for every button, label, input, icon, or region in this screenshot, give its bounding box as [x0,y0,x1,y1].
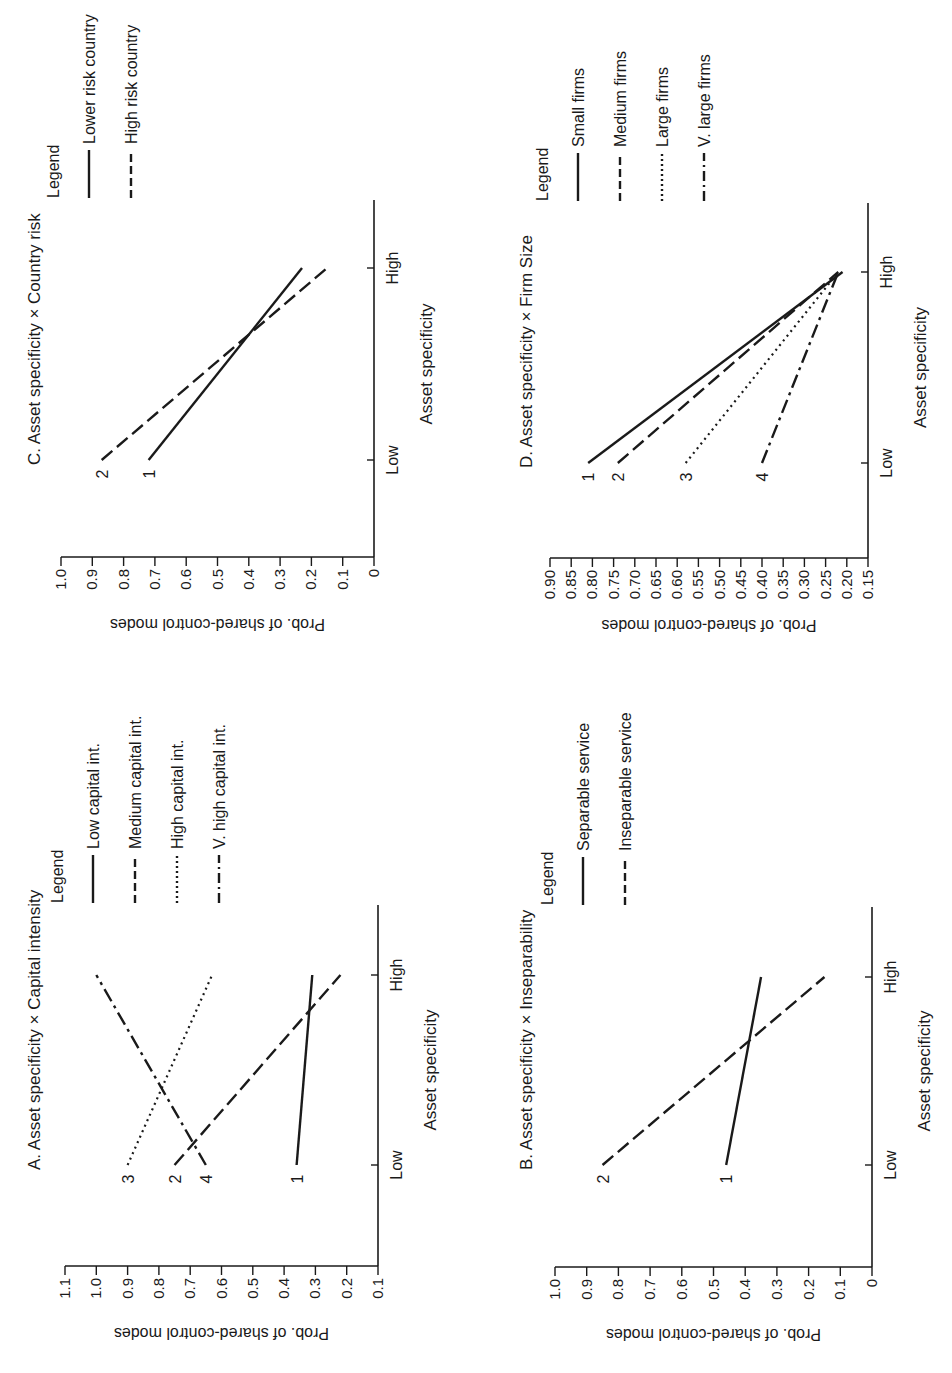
legend: LegendLower risk countryHigh risk countr… [45,14,140,198]
y-tick-label: 0.35 [774,570,791,599]
panel-a: A. Asset specificity × Capital intensity… [25,716,440,1342]
y-tick-label: 0.85 [562,570,579,599]
y-tick-label: 0.4 [240,569,257,590]
y-tick-label: 0.6 [213,1278,230,1299]
series-line-1 [726,977,761,1165]
series-line-1 [149,268,302,460]
legend-heading: Legend [49,850,66,903]
y-tick-label: 0.45 [732,570,749,599]
panel-b: B. Asset specificity × Inseparability1.0… [517,712,934,1343]
legend-label: Lower risk country [81,14,98,144]
y-tick-label: 0.75 [605,570,622,599]
x-tick-label: High [388,959,405,992]
y-tick-label: 1.0 [52,569,69,590]
legend-label: Large firms [654,67,671,147]
y-tick-label: 0.5 [209,569,226,590]
y-tick-label: 0.2 [800,1279,817,1300]
y-tick-label: 0.4 [275,1278,292,1299]
series-end-label: 2 [610,472,627,481]
legend-label: V. large firms [696,54,713,147]
series-line-1 [297,975,313,1165]
y-tick-label: 0.40 [753,570,770,599]
legend: LegendLow capital int.Medium capital int… [49,716,228,903]
x-axis-label: Asset specificity [421,1009,440,1130]
legend-label: High risk country [123,25,140,144]
y-tick-label: 0.7 [641,1279,658,1300]
legend-label: V. high capital int. [211,724,228,849]
y-tick-label: 0.1 [334,569,351,590]
legend-label: Separable service [575,723,592,851]
y-tick-label: 0.15 [859,570,876,599]
y-tick-label: 0.3 [306,1278,323,1299]
legend: LegendSeparable serviceInseparable servi… [539,712,634,905]
y-tick-label: 0.9 [83,569,100,590]
y-tick-label: 1.0 [87,1278,104,1299]
y-axis-label: Prob. of shared-control modes [110,616,325,633]
y-tick-label: 0 [365,569,382,577]
legend-label: Medium capital int. [127,716,144,849]
legend-heading: Legend [45,145,62,198]
y-tick-label: 0.9 [119,1278,136,1299]
series-end-label: 3 [678,472,695,481]
x-tick-label: High [882,961,899,994]
x-tick-label: Low [882,1150,899,1180]
y-tick-label: 0.8 [609,1279,626,1300]
y-tick-label: 0.9 [578,1279,595,1300]
y-axis-label: Prob. of shared-control modes [114,1325,329,1342]
legend-label: Low capital int. [85,743,102,849]
legend-label: Medium firms [612,51,629,147]
series-end-label: 2 [595,1174,612,1183]
legend: LegendSmall firmsMedium firmsLarge firms… [534,51,713,201]
x-axis-label: Asset specificity [911,307,930,428]
series-end-label: 4 [198,1174,215,1183]
series-end-label: 2 [94,469,111,478]
y-tick-label: 0.25 [817,570,834,599]
y-tick-label: 0.7 [146,569,163,590]
panel-title: D. Asset specificity × Firm Size [517,235,536,468]
y-tick-label: 0.6 [673,1279,690,1300]
series-end-label: 4 [754,472,771,481]
panel-title: A. Asset specificity × Capital intensity [25,889,44,1170]
y-tick-label: 0.2 [338,1278,355,1299]
y-tick-label: 0.6 [177,569,194,590]
y-tick-label: 0.3 [768,1279,785,1300]
series-line-2 [603,977,825,1165]
y-tick-label: 0.65 [647,570,664,599]
series-end-label: 1 [580,472,597,481]
y-tick-label: 0.55 [689,570,706,599]
y-tick-label: 0.8 [150,1278,167,1299]
series-line-3 [128,975,213,1165]
y-tick-label: 0.4 [736,1279,753,1300]
y-tick-label: 0.5 [244,1278,261,1299]
series-line-2 [618,272,838,463]
y-tick-label: 0.30 [795,570,812,599]
series-end-label: 1 [141,469,158,478]
legend-label: High capital int. [169,740,186,849]
x-axis-label: Asset specificity [915,1010,934,1131]
series-end-label: 1 [289,1174,306,1183]
y-tick-label: 0.20 [838,570,855,599]
y-axis-label: Prob. of shared-control modes [601,617,816,634]
series-end-label: 1 [718,1174,735,1183]
x-axis-label: Asset specificity [417,303,436,424]
series-line-4 [96,975,206,1165]
y-tick-label: 0.90 [541,570,558,599]
y-tick-label: 1.1 [56,1278,73,1299]
y-tick-label: 0.60 [668,570,685,599]
legend-label: Inseparable service [617,712,634,851]
series-line-3 [686,272,839,463]
panel-d: D. Asset specificity × Firm Size0.900.85… [517,51,930,634]
panel-c: C. Asset specificity × Country risk1.00.… [25,14,436,633]
y-tick-label: 0.7 [181,1278,198,1299]
y-tick-label: 0.50 [711,570,728,599]
x-tick-label: Low [384,445,401,475]
y-tick-label: 0 [863,1279,880,1287]
y-tick-label: 0.2 [302,569,319,590]
series-line-4 [762,272,838,463]
series-line-2 [175,975,341,1165]
y-axis-label: Prob. of shared-control modes [606,1326,821,1343]
panel-title: B. Asset specificity × Inseparability [517,909,536,1170]
y-tick-label: 0.3 [271,569,288,590]
legend-heading: Legend [534,148,551,201]
y-tick-label: 0.80 [583,570,600,599]
